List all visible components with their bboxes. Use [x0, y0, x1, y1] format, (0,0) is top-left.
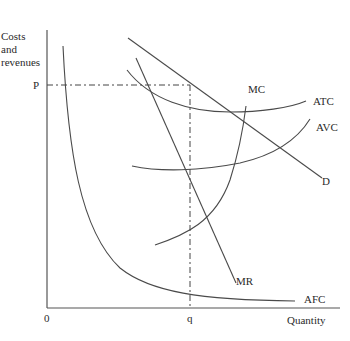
y-axis-label-line-2: and: [1, 43, 17, 55]
average-total-cost-curve: [127, 70, 306, 112]
origin-label: 0: [44, 312, 50, 324]
demand-label: D: [322, 175, 330, 187]
marginal-cost-curve: [155, 106, 246, 245]
afc-label: AFC: [304, 293, 325, 305]
quantity-label: q: [187, 312, 193, 324]
x-axis-label: Quantity: [287, 314, 326, 326]
demand-curve: [128, 38, 322, 178]
atc-label: ATC: [313, 95, 334, 107]
avc-label: AVC: [316, 121, 338, 133]
price-label: P: [33, 79, 39, 91]
mr-label: MR: [236, 275, 254, 287]
y-axis-label-line-1: Costs: [1, 30, 25, 42]
cost-revenue-diagram: Costs and revenues P 0 q Quantity MC ATC…: [0, 0, 350, 341]
average-variable-cost-curve: [132, 119, 310, 170]
y-axis-label-line-3: revenues: [1, 56, 40, 68]
mc-label: MC: [248, 83, 265, 95]
